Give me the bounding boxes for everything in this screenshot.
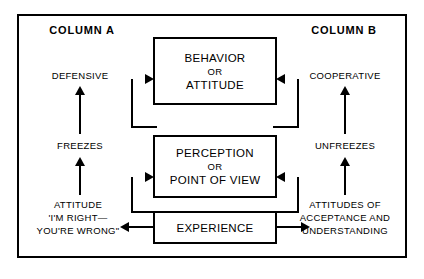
box-perception-line-3: POINT OF VIEW <box>170 173 261 187</box>
connector-segment-vertical <box>297 177 299 213</box>
box-experience-line-1: EXPERIENCE <box>176 221 253 235</box>
label-defensive: DEFENSIVE <box>21 69 139 82</box>
arrow-head-left-icon <box>276 172 285 182</box>
arrow-experience-to-column-a-icon <box>120 222 155 232</box>
arrow-head <box>120 222 129 232</box>
arrow-shaft <box>275 226 301 228</box>
box-experience: EXPERIENCE <box>153 211 277 244</box>
arrow-shaft <box>344 93 346 134</box>
label-attitude-column-a-line-1: ATTITUDE <box>14 198 142 211</box>
arrow-shaft <box>79 164 81 195</box>
column-b-heading: COLUMN B <box>284 24 404 36</box>
box-behavior-line-3: ATTITUDE <box>186 78 244 92</box>
column-a-heading: COLUMN A <box>22 24 142 36</box>
label-freezes: FREEZES <box>21 139 139 152</box>
connector-segment-horizontal <box>131 126 157 128</box>
arrow-head-left-icon <box>276 74 285 84</box>
box-behavior-line-2: OR <box>208 65 223 78</box>
arrow-shaft <box>129 226 155 228</box>
box-behavior-line-1: BEHAVIOR <box>185 51 246 65</box>
box-perception-line-2: OR <box>208 160 223 173</box>
label-cooperative: COOPERATIVE <box>286 69 404 82</box>
arrow-shaft <box>344 164 346 195</box>
label-attitudes-column-b-line-1: ATTITUDES OF <box>281 198 409 211</box>
connector-segment-vertical <box>297 79 299 128</box>
arrow-shaft <box>79 93 81 134</box>
connector-segment-horizontal <box>273 126 299 128</box>
diagram-canvas: COLUMN A COLUMN B BEHAVIOR OR ATTITUDE P… <box>0 0 424 279</box>
arrow-head <box>301 222 310 232</box>
connector-segment-vertical <box>131 79 133 128</box>
box-behavior: BEHAVIOR OR ATTITUDE <box>153 37 277 105</box>
box-perception-line-1: PERCEPTION <box>176 146 254 160</box>
arrow-experience-to-column-b-icon <box>275 222 310 232</box>
box-perception: PERCEPTION OR POINT OF VIEW <box>153 135 277 198</box>
label-unfreezes: UNFREEZES <box>286 139 404 152</box>
connector-segment-vertical <box>131 177 133 213</box>
